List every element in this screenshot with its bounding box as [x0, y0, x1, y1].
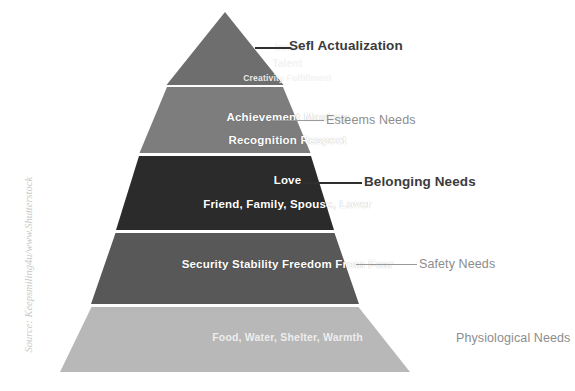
leader-line-belonging: [304, 182, 362, 184]
leader-line-self-actualization: [255, 47, 291, 49]
maslow-pyramid-figure: Inner Talent Creativity Fulfillment Achi…: [0, 0, 575, 391]
callout-label-self-actualization: Sefl Actualization: [289, 38, 403, 53]
tier-text-creativity-fulfillment: Creativity Fulfillment: [0, 73, 575, 83]
source-credit: Source: Keepsmiling4u/www.Shutterstock: [23, 183, 34, 353]
callout-label-esteem: Esteems Needs: [326, 113, 416, 127]
pyramid-tier-belonging: [116, 156, 334, 230]
leader-line-safety: [356, 264, 417, 265]
leader-line-esteem: [272, 120, 324, 121]
tier-text-friend-family-spouse-lover: Friend, Family, Spouse, Lover: [0, 198, 575, 210]
tier-text-love: Love: [0, 174, 575, 186]
tier-text-recognition-respect: Recognition Respect: [0, 134, 575, 146]
callout-label-belonging: Belonging Needs: [364, 174, 476, 189]
tier-text-talent: Talent: [0, 58, 575, 69]
tier-text-achievement-mastery: Achievement Mastery: [0, 111, 575, 123]
callout-label-safety: Safety Needs: [419, 257, 495, 271]
callout-label-physiological: Physiological Needs: [456, 331, 570, 345]
